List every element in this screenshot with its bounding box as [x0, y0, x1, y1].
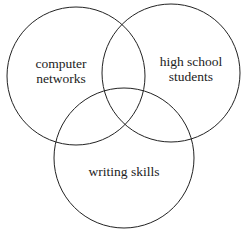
circle-writing-skills — [54, 88, 194, 228]
label-line: high school — [151, 54, 231, 69]
label-line: writing skills — [74, 164, 174, 179]
label-writing-skills: writing skills — [74, 164, 174, 179]
venn-diagram — [0, 0, 241, 231]
label-line: networks — [21, 71, 101, 86]
label-computer-networks: computer networks — [21, 56, 101, 86]
label-high-school-students: high school students — [151, 54, 231, 84]
label-line: computer — [21, 56, 101, 71]
label-line: students — [151, 69, 231, 84]
